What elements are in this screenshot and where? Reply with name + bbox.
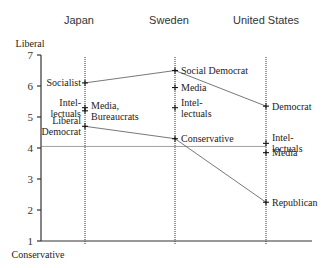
data-label-line: Media	[272, 147, 298, 158]
data-label-line: Republican	[272, 197, 318, 208]
data-label: Conservative	[181, 133, 234, 144]
data-label: Media,Bureaucrats	[91, 100, 139, 122]
data-label-line: Democrat	[42, 126, 82, 137]
data-label-line: Intel-	[272, 132, 294, 143]
y-label-bottom: Conservative	[12, 249, 65, 260]
data-label-line: Conservative	[181, 133, 234, 144]
data-label-line: Intel-	[59, 97, 81, 108]
data-label: Social Democrat	[181, 65, 248, 76]
y-tick-label: 3	[28, 173, 34, 185]
data-label-line: Intel-	[181, 97, 203, 108]
y-tick-label: 1	[28, 235, 34, 247]
y-tick-label: 4	[28, 142, 34, 154]
data-label: LiberalDemocrat	[42, 115, 82, 137]
country-header: Japan	[64, 14, 94, 26]
data-label: Democrat	[272, 101, 312, 112]
data-label-line: lectuals	[181, 108, 212, 119]
data-label-line: Socialist	[47, 77, 82, 88]
data-label-line: Media	[181, 82, 207, 93]
country-header: Sweden	[149, 14, 189, 26]
data-label: Intel-lectuals	[181, 97, 212, 119]
data-label-line: Social Democrat	[181, 65, 248, 76]
y-tick-label: 5	[28, 111, 34, 123]
data-label: Republican	[272, 197, 318, 208]
data-label-line: Liberal	[52, 115, 81, 126]
data-label: Media	[181, 82, 207, 93]
data-label: Socialist	[47, 77, 82, 88]
y-tick-label: 7	[28, 49, 34, 61]
y-label-top: Liberal	[16, 38, 45, 49]
data-label: Media	[272, 147, 298, 158]
data-label-line: Democrat	[272, 101, 312, 112]
data-label-line: Media,	[91, 100, 119, 111]
y-tick-label: 6	[28, 80, 34, 92]
data-label-line: Bureaucrats	[91, 111, 139, 122]
y-tick-label: 2	[28, 204, 34, 216]
country-header: United States	[233, 14, 300, 26]
chart: JapanSwedenUnited StatesLiberalConservat…	[0, 0, 334, 268]
